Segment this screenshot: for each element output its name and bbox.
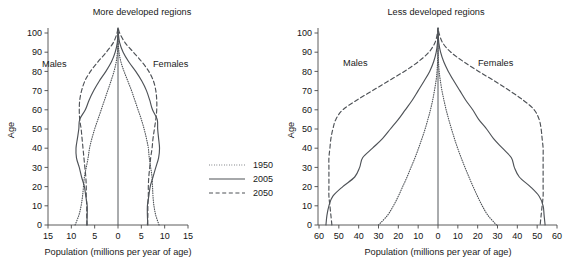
left-y-tick-label: 90: [32, 47, 42, 57]
left-males-label: Males: [42, 59, 67, 69]
right-x-tick-label: 40: [512, 231, 522, 241]
right-x-axis-label: Population (millions per year of age): [364, 247, 511, 257]
right-x-tick-label: 60: [552, 231, 562, 241]
legend-label-2050: 2050: [253, 188, 273, 198]
right-x-tick-label: 50: [334, 231, 344, 241]
left-y-tick-label: 0: [37, 220, 42, 230]
left-y-tick-label: 20: [32, 182, 42, 192]
left-females-label: Females: [153, 59, 189, 69]
left-curves: [75, 28, 159, 225]
right-x-tick-label: 30: [492, 231, 502, 241]
right-x-tick-label: 30: [373, 231, 383, 241]
left-x-tick-label: 15: [43, 231, 53, 241]
left-y-tick-label: 10: [32, 201, 42, 211]
population-pyramid-figure: More developed regions 01020304050607080…: [0, 0, 568, 272]
panel-left-title: More developed regions: [93, 7, 192, 17]
right-y-tick-label: 30: [302, 163, 312, 173]
right-males-label: Males: [343, 58, 368, 68]
right-y-tick-label: 50: [302, 124, 312, 134]
left-y-tick-label: 40: [32, 143, 42, 153]
left-x-tick-label: 10: [66, 231, 76, 241]
left-x-tick-label: 5: [92, 231, 97, 241]
right-x-tick-label: 20: [393, 231, 403, 241]
right-x-ticks: 6050403020100102030405060: [314, 225, 562, 241]
panel-more-developed-regions: More developed regions 01020304050607080…: [0, 0, 284, 272]
left-x-axis-label: Population (millions per year of age): [44, 247, 191, 257]
right-y-tick-label: 90: [302, 47, 312, 57]
right-females-label: Females: [478, 58, 514, 68]
panel-less-developed-regions: Less developed regions 01020304050607080…: [284, 0, 568, 272]
right-y-axis-label: Age: [286, 122, 296, 138]
right-x-tick-label: 50: [532, 231, 542, 241]
right-y-tick-label: 100: [297, 28, 312, 38]
left-y-tick-label: 80: [32, 67, 42, 77]
left-y-tick-label: 60: [32, 105, 42, 115]
right-y-tick-label: 70: [302, 86, 312, 96]
left-x-ticks: 15105051015: [43, 225, 193, 241]
panel-right-title: Less developed regions: [387, 7, 484, 17]
left-y-tick-label: 70: [32, 86, 42, 96]
left-y-tick-label: 50: [32, 124, 42, 134]
right-y-ticks: 0102030405060708090100: [297, 28, 318, 230]
left-x-tick-label: 10: [160, 231, 170, 241]
left-x-tick-label: 0: [115, 231, 120, 241]
left-x-tick-label: 5: [139, 231, 144, 241]
right-x-tick-label: 20: [473, 231, 483, 241]
right-x-tick-label: 60: [314, 231, 324, 241]
left-y-axis-label: Age: [6, 122, 16, 138]
right-x-tick-label: 10: [413, 231, 423, 241]
legend: 195020052050: [205, 155, 285, 207]
right-x-tick-label: 10: [453, 231, 463, 241]
left-y-tick-label: 100: [27, 28, 42, 38]
right-y-tick-label: 80: [302, 67, 312, 77]
right-y-tick-label: 20: [302, 182, 312, 192]
right-y-tick-label: 10: [302, 201, 312, 211]
right-y-tick-label: 60: [302, 105, 312, 115]
right-y-tick-label: 40: [302, 143, 312, 153]
right-x-tick-label: 0: [435, 231, 440, 241]
legend-label-1950: 1950: [253, 160, 273, 170]
legend-label-2005: 2005: [253, 174, 273, 184]
left-y-tick-label: 30: [32, 163, 42, 173]
left-curve-1950: [75, 28, 159, 225]
right-x-tick-label: 40: [354, 231, 364, 241]
right-y-tick-label: 0: [307, 220, 312, 230]
left-x-tick-label: 15: [183, 231, 193, 241]
